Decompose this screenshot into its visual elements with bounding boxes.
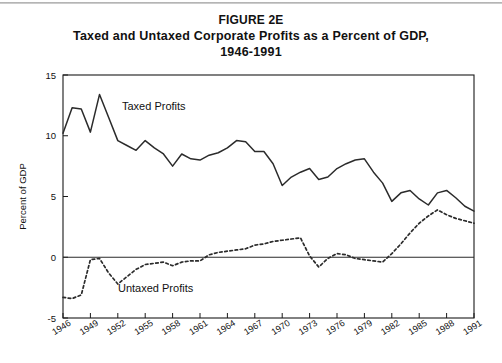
x-tick-label: 1985 <box>406 318 428 337</box>
y-axis-tick-labels: -5051015 <box>45 70 56 324</box>
x-tick-label: 1970 <box>269 318 291 337</box>
x-tick-label: 1991 <box>461 318 483 337</box>
y-tick-label: 0 <box>51 252 56 263</box>
x-tick-label: 1979 <box>352 318 374 337</box>
y-tick-label: -5 <box>48 313 56 324</box>
x-tick-label: 1952 <box>105 318 127 337</box>
x-tick-label: 1982 <box>379 318 401 337</box>
annotation-taxed-profits: Taxed Profits <box>122 100 186 112</box>
x-tick-label: 1964 <box>215 318 237 337</box>
x-tick-label: 1967 <box>242 318 264 337</box>
chart-area: -5051015 1946194919521955195819611964196… <box>0 0 502 363</box>
y-axis-title: Percent of GDP <box>17 163 28 230</box>
x-tick-label: 1955 <box>132 318 154 337</box>
x-tick-label: 1976 <box>324 318 346 337</box>
x-tick-label: 1988 <box>434 318 456 337</box>
x-tick-label: 1958 <box>160 318 182 337</box>
x-tick-label: 1961 <box>187 318 209 337</box>
line-chart: -5051015 1946194919521955195819611964196… <box>0 0 502 363</box>
y-tick-label: 10 <box>45 130 56 141</box>
x-tick-label: 1949 <box>78 318 100 337</box>
x-tick-label: 1973 <box>297 318 319 337</box>
x-axis-tick-labels: 1946194919521955195819611964196719701973… <box>50 318 483 337</box>
y-tick-label: 5 <box>51 191 56 202</box>
annotation-untaxed-profits: Untaxed Profits <box>118 282 194 294</box>
x-axis-ticks <box>63 313 474 318</box>
y-tick-label: 15 <box>45 70 56 81</box>
y-axis-ticks <box>63 75 68 318</box>
